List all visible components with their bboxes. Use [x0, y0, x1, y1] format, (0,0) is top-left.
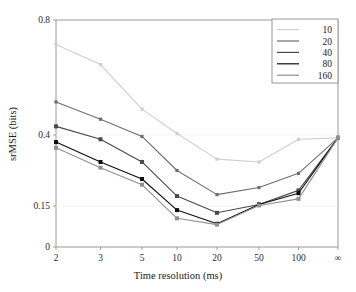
x-axis-title: Time resolution (ms) [134, 270, 223, 282]
data-point-marker [257, 203, 261, 207]
data-point-marker [297, 197, 301, 201]
data-point-marker [297, 138, 300, 141]
y-tick-label: 0.15 [33, 201, 50, 211]
y-axis-title: srMSE (bits) [7, 107, 19, 161]
x-tick-label: 50 [254, 253, 264, 263]
x-tick-label: 3 [98, 253, 103, 263]
x-tick-label: 100 [291, 253, 306, 263]
srmse-vs-time-resolution-chart: 235102050100∞ 00.150.40.8 10204080160 Ti… [0, 0, 356, 292]
data-point-marker [175, 194, 179, 198]
x-tick-label: 2 [54, 253, 59, 263]
data-point-marker [215, 193, 218, 196]
legend-item-label: 40 [323, 48, 333, 58]
data-point-marker [99, 63, 102, 66]
data-point-marker [215, 223, 219, 227]
chart-figure: 235102050100∞ 00.150.40.8 10204080160 Ti… [0, 0, 356, 292]
legend-item-label: 10 [323, 25, 333, 35]
data-point-marker [336, 136, 340, 140]
data-point-marker [257, 186, 260, 189]
y-tick-label: 0 [45, 242, 50, 252]
data-point-marker [99, 160, 103, 164]
data-point-marker [175, 216, 179, 220]
data-point-marker [140, 183, 144, 187]
data-point-marker [297, 191, 301, 195]
data-point-marker [175, 169, 178, 172]
x-tick-label: ∞ [335, 253, 342, 263]
data-point-marker [54, 43, 57, 46]
data-point-marker [99, 137, 103, 141]
data-point-marker [54, 146, 58, 150]
data-point-marker [140, 177, 144, 181]
x-tick-label: 20 [212, 253, 222, 263]
data-point-marker [257, 160, 260, 163]
data-point-marker [140, 160, 144, 164]
data-point-marker [215, 158, 218, 161]
data-point-marker [99, 118, 102, 121]
data-point-marker [54, 100, 57, 103]
data-point-marker [99, 166, 103, 170]
data-point-marker [54, 140, 58, 144]
data-point-marker [215, 211, 219, 215]
legend-item-label: 20 [323, 37, 333, 47]
data-point-marker [54, 124, 58, 128]
y-tick-label: 0.4 [38, 130, 50, 140]
data-point-marker [297, 172, 300, 175]
y-tick-label: 0.8 [38, 15, 50, 25]
x-tick-label: 10 [172, 253, 182, 263]
data-point-marker [175, 132, 178, 135]
data-point-marker [175, 208, 179, 212]
data-point-marker [140, 108, 143, 111]
legend-item-label: 80 [323, 59, 333, 69]
x-tick-label: 5 [140, 253, 145, 263]
data-point-marker [140, 135, 143, 138]
legend[interactable]: 10204080160 [272, 19, 338, 83]
legend-item-label: 160 [318, 71, 333, 81]
